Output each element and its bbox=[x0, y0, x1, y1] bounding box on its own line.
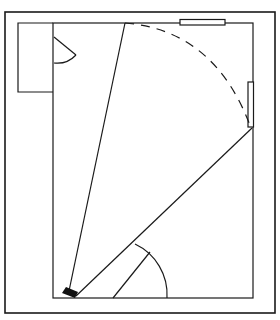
view-line-right bbox=[76, 128, 252, 296]
top-window bbox=[180, 20, 225, 26]
alcove bbox=[18, 23, 53, 92]
view-arc-dashed bbox=[125, 23, 251, 128]
view-line-left bbox=[69, 23, 125, 291]
door-swing-arc-bottom bbox=[135, 244, 167, 298]
door-leaf-top bbox=[54, 37, 76, 55]
door-swing-arc-top bbox=[54, 55, 76, 63]
outer-frame bbox=[5, 12, 275, 313]
door-leaf-bottom bbox=[113, 252, 150, 298]
right-window bbox=[248, 82, 254, 127]
floor-plan-diagram bbox=[0, 0, 280, 320]
